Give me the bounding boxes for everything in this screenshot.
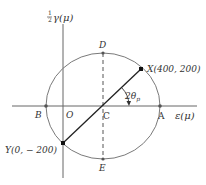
- angle-arrowhead: [127, 101, 132, 106]
- label-O: O: [66, 110, 74, 120]
- y-axis-label: γ(μ): [53, 12, 73, 23]
- point-B: [44, 104, 48, 108]
- label-X: X(400, 200): [146, 64, 201, 74]
- point-A: [158, 104, 162, 108]
- point-X: [139, 67, 143, 71]
- point-Y: [61, 141, 65, 145]
- point-E: [101, 157, 104, 160]
- label-A: A: [157, 111, 165, 121]
- label-Y: Y(0, − 200): [5, 145, 57, 155]
- angle-label-base: 2θ: [124, 91, 137, 101]
- label-C: C: [103, 111, 110, 121]
- label-D: D: [98, 40, 106, 50]
- label-E: E: [98, 163, 106, 173]
- angle-label-sub: p: [136, 95, 140, 103]
- mohr-circle-diagram: 1 2 γ(μ) ε(μ) D E B O C A X(400, 200) Y(…: [0, 0, 206, 185]
- label-B: B: [34, 110, 42, 120]
- point-D: [101, 51, 104, 54]
- angle-label: 2θp: [124, 91, 140, 103]
- x-axis-label: ε(μ): [175, 110, 195, 121]
